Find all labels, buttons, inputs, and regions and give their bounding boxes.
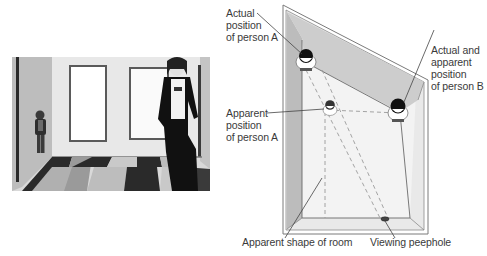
label-line: position [226, 19, 278, 31]
label-line: of person A [226, 131, 278, 143]
label-position-b: Actual and apparent position of person B [431, 44, 484, 92]
peephole-icon [381, 217, 389, 221]
label-line: apparent [431, 56, 484, 68]
label-apparent-position-a: Apparent position of person A [226, 107, 278, 143]
label-line: position [226, 119, 278, 131]
label-line: of person A [226, 31, 278, 43]
label-apparent-room-shape: Apparent shape of room [242, 236, 352, 248]
label-viewing-peephole: Viewing peephole [370, 236, 451, 248]
label-line: Apparent [226, 107, 278, 119]
label-line: Actual and [431, 44, 484, 56]
label-line: Actual [226, 7, 278, 19]
label-actual-position-a: Actual position of person A [226, 7, 278, 43]
label-line: of person B [431, 80, 484, 92]
label-line: position [431, 68, 484, 80]
